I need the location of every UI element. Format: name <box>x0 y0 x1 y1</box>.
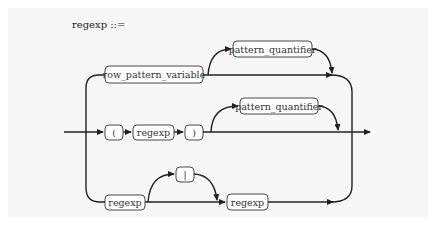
left-rail-bottom <box>86 132 105 202</box>
svg-text:regexp: regexp <box>137 127 170 138</box>
svg-text:pattern_quantifier: pattern_quantifier <box>229 44 317 56</box>
pipe-out <box>194 174 217 200</box>
top-quantifier-in <box>208 49 231 75</box>
rule-title: regexp ::= <box>72 19 125 30</box>
pipe-in <box>148 174 174 202</box>
pattern-quantifier-box-1[interactable]: pattern_quantifier <box>229 41 317 57</box>
svg-text:(: ( <box>112 127 116 138</box>
svg-text:|: | <box>183 169 186 181</box>
right-rail-top <box>331 75 352 132</box>
rparen-box[interactable]: ) <box>185 125 203 140</box>
svg-text:): ) <box>192 127 196 138</box>
left-rail-top <box>86 75 105 132</box>
pattern-quantifier-box-2[interactable]: pattern_quantifier <box>235 98 323 114</box>
pipe-box[interactable]: | <box>176 167 194 182</box>
regexp-right-box[interactable]: regexp <box>227 194 268 210</box>
svg-text:pattern_quantifier: pattern_quantifier <box>235 101 323 113</box>
svg-text:row_pattern_variable: row_pattern_variable <box>103 69 206 81</box>
row-pattern-variable-box[interactable]: row_pattern_variable <box>103 66 206 83</box>
lparen-box[interactable]: ( <box>105 125 123 140</box>
right-rail-bottom <box>331 132 352 202</box>
svg-text:regexp: regexp <box>231 197 264 208</box>
regexp-left-box[interactable]: regexp <box>105 195 145 210</box>
svg-text:regexp: regexp <box>108 197 141 208</box>
railroad-diagram: regexp ::= row_pattern_variable pattern_… <box>0 0 437 227</box>
mid-quantifier-in <box>211 106 238 132</box>
regexp-inner-box[interactable]: regexp <box>133 125 174 140</box>
